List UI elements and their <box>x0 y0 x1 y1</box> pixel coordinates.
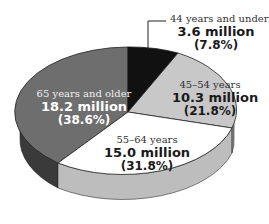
label-category: 65 years and older <box>36 88 132 100</box>
label-value: 15.0 million <box>99 146 195 161</box>
label-value: 18.2 million <box>36 100 132 115</box>
label-percent: (7.8%) <box>170 39 262 53</box>
label-value: 10.3 million <box>172 91 248 106</box>
label-percent: (38.6%) <box>36 114 132 128</box>
label-percent: (21.8%) <box>172 105 248 119</box>
label-55-64: 55–64 years 15.0 million (31.8%) <box>99 134 195 174</box>
label-45-54: 45–54 years 10.3 million (21.8%) <box>172 79 248 119</box>
callout-line-44-and-under <box>148 21 166 50</box>
label-category: 44 years and under <box>170 13 262 25</box>
label-44-and-under: 44 years and under 3.6 million (7.8%) <box>170 13 262 53</box>
label-category: 45–54 years <box>172 79 248 91</box>
label-value: 3.6 million <box>170 25 262 40</box>
label-category: 55–64 years <box>99 134 195 146</box>
label-65-and-older: 65 years and older 18.2 million (38.6%) <box>36 88 132 128</box>
label-percent: (31.8%) <box>99 160 195 174</box>
